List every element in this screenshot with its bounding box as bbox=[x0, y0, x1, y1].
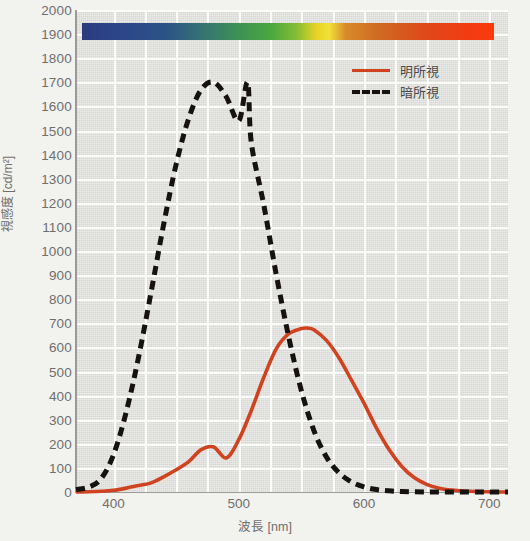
legend-swatch-dashed-line bbox=[352, 90, 390, 94]
legend-swatch-solid-line bbox=[352, 69, 390, 72]
photopic-curve bbox=[76, 328, 508, 492]
legend-item-photopic: 明所視 bbox=[352, 60, 462, 81]
legend-label-photopic: 明所視 bbox=[400, 61, 439, 80]
chart-legend: 明所視 暗所視 bbox=[352, 60, 462, 102]
chart-figure: 2000190018001700160015001400130012001100… bbox=[0, 0, 530, 541]
legend-label-scotopic: 暗所視 bbox=[400, 82, 439, 101]
legend-item-scotopic: 暗所視 bbox=[352, 81, 462, 102]
scotopic-curve bbox=[76, 82, 508, 492]
